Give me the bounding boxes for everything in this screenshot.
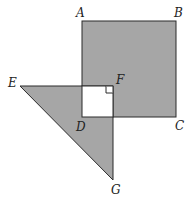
label-d: D	[75, 120, 86, 134]
label-b: B	[173, 6, 183, 20]
geometry-diagram: A B C D E F G	[0, 0, 186, 201]
label-g: G	[111, 183, 121, 197]
label-e: E	[7, 76, 17, 90]
label-f: F	[115, 73, 125, 87]
label-c: C	[175, 119, 184, 133]
label-a: A	[75, 6, 85, 20]
